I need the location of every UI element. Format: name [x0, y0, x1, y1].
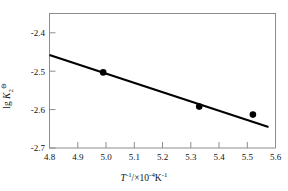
fit-line	[50, 55, 269, 127]
data-point	[250, 111, 257, 118]
y-axis-superscript: ⊖	[0, 83, 7, 89]
x-axis-tick-labels: 4.8 4.9 5.0 5.1 5.2 5.3 5.4 5.5 5.6	[44, 152, 282, 162]
x-tick-label: 5.2	[157, 152, 168, 162]
y-axis-prefix: lg	[2, 98, 12, 108]
y-axis-tick-labels: -2.4 -2.5 -2.6 -2.7	[31, 28, 46, 153]
y-axis-ticks	[50, 33, 56, 148]
y-tick-label: -2.5	[31, 67, 46, 77]
x-axis-title: T-1/×10-4K-1	[0, 172, 288, 184]
y-axis-title: lg K2⊖	[1, 83, 15, 109]
x-tick-label: 4.8	[44, 152, 56, 162]
x-axis-separator: /×10	[132, 173, 150, 183]
data-point	[196, 103, 203, 110]
van-t-hoff-plot: 4.8 4.9 5.0 5.1 5.2 5.3 5.4 5.5 5.6 -2.4…	[0, 0, 288, 191]
x-tick-label: 5.0	[100, 152, 112, 162]
data-points	[100, 69, 256, 118]
x-tick-label: 4.9	[72, 152, 84, 162]
y-axis-symbol: K	[2, 92, 12, 98]
x-tick-label: 5.6	[270, 152, 282, 162]
x-axis-unit-exponent: -1	[162, 171, 168, 178]
y-tick-label: -2.4	[31, 28, 46, 38]
y-axis-subscript: 2	[7, 89, 14, 92]
chart-figure: 4.8 4.9 5.0 5.1 5.2 5.3 5.4 5.5 5.6 -2.4…	[0, 0, 288, 191]
x-axis-unit: K	[155, 173, 162, 183]
x-tick-label: 5.3	[185, 152, 197, 162]
x-tick-label: 5.5	[242, 152, 254, 162]
x-axis-ticks	[50, 142, 276, 148]
data-point	[100, 69, 107, 76]
y-tick-label: -2.6	[31, 105, 46, 115]
x-tick-label: 5.4	[213, 152, 225, 162]
y-tick-label: -2.7	[31, 143, 46, 153]
x-tick-label: 5.1	[129, 152, 140, 162]
plot-frame	[50, 14, 276, 149]
